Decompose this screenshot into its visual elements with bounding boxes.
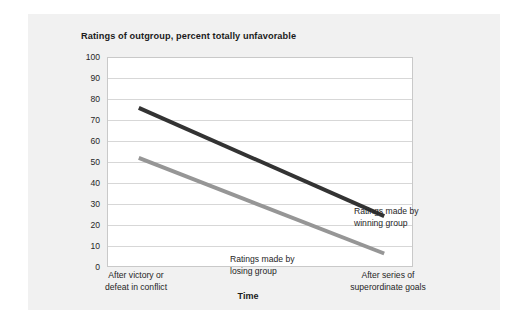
y-tick-90: 90 [28, 73, 100, 83]
y-tick-100: 100 [28, 52, 100, 62]
x-tick-right-line2: superordinate goals [328, 282, 448, 294]
y-tick-70: 70 [28, 115, 100, 125]
y-axis: 100 90 80 70 60 50 40 30 20 10 0 [28, 57, 100, 267]
annotation-losing-line2: losing group [230, 266, 295, 278]
line-losing-group [139, 158, 384, 254]
x-tick-label-left: After victory or defeat in conflict [82, 270, 190, 293]
chart-title: Ratings of outgroup, percent totally unf… [81, 31, 296, 41]
y-tick-40: 40 [28, 178, 100, 188]
y-tick-20: 20 [28, 220, 100, 230]
x-tick-label-right: After series of superordinate goals [328, 270, 448, 293]
annotation-winning-line1: Ratings made by [354, 206, 419, 218]
y-tick-10: 10 [28, 241, 100, 251]
y-tick-50: 50 [28, 157, 100, 167]
x-tick-left-line1: After victory or [82, 270, 190, 282]
x-tick-left-line2: defeat in conflict [82, 282, 190, 294]
y-tick-60: 60 [28, 136, 100, 146]
annotation-losing-line1: Ratings made by [230, 254, 295, 266]
x-axis-title: Time [188, 291, 308, 301]
y-tick-30: 30 [28, 199, 100, 209]
series-lines [108, 58, 412, 266]
line-winning-group [139, 108, 384, 216]
y-tick-80: 80 [28, 94, 100, 104]
annotation-winning-line2: winning group [354, 218, 419, 230]
plot-area: Ratings made by winning group Ratings ma… [107, 57, 413, 267]
annotation-losing-group: Ratings made by losing group [230, 254, 295, 277]
x-tick-right-line1: After series of [328, 270, 448, 282]
annotation-winning-group: Ratings made by winning group [354, 206, 419, 229]
figure-panel: Ratings of outgroup, percent totally unf… [28, 14, 500, 310]
